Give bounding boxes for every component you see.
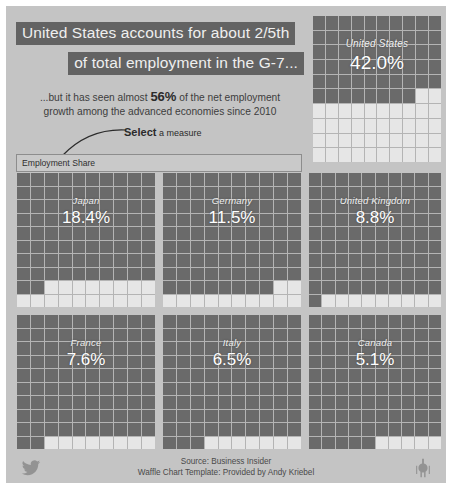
waffle-cell [142, 254, 155, 267]
waffle-cell [349, 254, 361, 267]
waffle-cell [365, 119, 377, 133]
waffle-cell [322, 423, 334, 436]
waffle-cell [128, 187, 141, 200]
waffle-cell [31, 423, 44, 436]
measure-select-dropdown[interactable]: Employment Share [16, 154, 302, 172]
waffle-cell [142, 295, 155, 308]
waffle-cell [339, 119, 351, 133]
waffle-cell [274, 342, 287, 355]
waffle-cell [100, 281, 113, 294]
waffle-cell [365, 16, 377, 30]
waffle-cell [86, 214, 99, 227]
waffle-cell [128, 315, 141, 328]
waffle-cell [336, 281, 348, 294]
waffle-cell [232, 423, 245, 436]
waffle-cell [191, 200, 204, 213]
waffle-cell [349, 268, 361, 281]
waffle-cell [415, 200, 427, 213]
waffle-cell [114, 315, 127, 328]
waffle-cell [429, 16, 441, 30]
waffle-cell [362, 410, 374, 423]
waffle-cell [326, 45, 338, 59]
waffle-panel-germany[interactable]: Germany 11.5% [163, 173, 301, 307]
waffle-cell [205, 173, 218, 186]
waffle-cell [376, 281, 388, 294]
waffle-cell [219, 423, 232, 436]
waffle-cell [326, 89, 338, 103]
waffle-cell [326, 16, 338, 30]
waffle-cell [232, 214, 245, 227]
waffle-cell [402, 295, 414, 308]
waffle-cell [163, 396, 176, 409]
waffle-cell [402, 410, 414, 423]
waffle-cell [326, 148, 338, 162]
waffle-cell [246, 342, 259, 355]
waffle-cell [322, 173, 334, 186]
waffle-cell [416, 148, 428, 162]
waffle-cell [377, 16, 389, 30]
waffle-cell [17, 410, 30, 423]
waffle-panel-italy[interactable]: Italy 6.5% [163, 315, 301, 449]
waffle-cell [376, 315, 388, 328]
waffle-cell [402, 214, 414, 227]
waffle-panel-canada[interactable]: Canada 5.1% [309, 315, 441, 449]
waffle-cell [59, 342, 72, 355]
waffle-cell [191, 410, 204, 423]
waffle-cell [349, 410, 361, 423]
waffle-cell [416, 104, 428, 118]
waffle-cell [389, 295, 401, 308]
waffle-cell [322, 369, 334, 382]
waffle-cell [349, 437, 361, 450]
footer-text: Source: Business Insider Waffle Chart Te… [6, 456, 446, 478]
waffle-cell [100, 423, 113, 436]
subtitle-prefix: ...but it has seen almost [40, 92, 150, 103]
waffle-cell [73, 295, 86, 308]
waffle-cell [31, 200, 44, 213]
waffle-cell [429, 342, 441, 355]
waffle-cell [365, 75, 377, 89]
waffle-cell [402, 383, 414, 396]
waffle-cell [336, 410, 348, 423]
waffle-cell [349, 315, 361, 328]
waffle-cell [100, 227, 113, 240]
waffle-cell [349, 281, 361, 294]
waffle-cell [309, 423, 321, 436]
waffle-cell [389, 423, 401, 436]
waffle-cell [86, 295, 99, 308]
waffle-panel-japan[interactable]: Japan 18.4% [17, 173, 155, 307]
waffle-cell [322, 200, 334, 213]
waffle-cell [86, 410, 99, 423]
tableau-icon[interactable] [412, 457, 434, 479]
waffle-cell [177, 369, 190, 382]
waffle-cell [322, 214, 334, 227]
waffle-cell [415, 281, 427, 294]
waffle-cell [415, 227, 427, 240]
waffle-panel-france[interactable]: France 7.6% [17, 315, 155, 449]
waffle-cell [309, 200, 321, 213]
waffle-cell [390, 104, 402, 118]
waffle-cell [31, 268, 44, 281]
waffle-cell [232, 437, 245, 450]
waffle-cell [362, 281, 374, 294]
waffle-cell [219, 369, 232, 382]
waffle-cell [389, 187, 401, 200]
waffle-cell [86, 173, 99, 186]
waffle-panel-united-states[interactable]: United States 42.0% [313, 16, 441, 162]
waffle-cell [246, 227, 259, 240]
waffle-cell [142, 268, 155, 281]
waffle-cell [31, 214, 44, 227]
waffle-cell [336, 173, 348, 186]
waffle-cell [362, 268, 374, 281]
waffle-cell [429, 200, 441, 213]
waffle-cell [403, 104, 415, 118]
waffle-cell [402, 173, 414, 186]
waffle-cell [73, 241, 86, 254]
waffle-cell [219, 383, 232, 396]
waffle-cell [86, 423, 99, 436]
waffle-cell [429, 241, 441, 254]
waffle-cell [17, 437, 30, 450]
waffle-cell [402, 187, 414, 200]
waffle-cell [205, 329, 218, 342]
waffle-cell [349, 227, 361, 240]
waffle-panel-united-kingdom[interactable]: United Kingdom 8.8% [309, 173, 441, 307]
